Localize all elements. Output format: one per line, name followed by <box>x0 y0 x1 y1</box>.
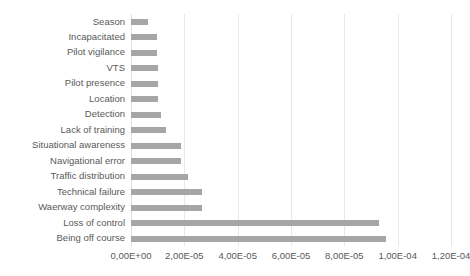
x-tick-label: 0,00E+00 <box>111 250 152 261</box>
category-label: Pilot vigilance <box>67 47 125 57</box>
category-label: Technical failure <box>57 187 125 197</box>
x-tick-label: 8,00E-05 <box>325 250 364 261</box>
bar <box>131 174 188 180</box>
bar-row <box>131 184 451 200</box>
category-label: Waerway complexity <box>38 202 125 212</box>
gridline <box>451 14 452 246</box>
category-label: Navigational error <box>50 156 125 166</box>
bar <box>131 127 166 133</box>
bar-row <box>131 153 451 169</box>
x-tick-label: 4,00E-05 <box>218 250 257 261</box>
bar <box>131 205 202 211</box>
bar <box>131 158 181 164</box>
x-tick-label: 1,00E-04 <box>378 250 417 261</box>
bar <box>131 19 148 25</box>
value-axis-tick-labels: 0,00E+002,00E-054,00E-056,00E-058,00E-05… <box>0 250 466 266</box>
bar-row <box>131 91 451 107</box>
category-label: Location <box>89 94 125 104</box>
bar <box>131 189 202 195</box>
category-label: Loss of control <box>63 218 125 228</box>
x-tick-label: 2,00E-05 <box>165 250 204 261</box>
bar <box>131 50 157 56</box>
bar <box>131 65 158 71</box>
bar <box>131 81 158 87</box>
bar <box>131 143 181 149</box>
bar-row <box>131 231 451 247</box>
plot-area <box>131 14 451 246</box>
x-tick-label: 1,20E-04 <box>432 250 470 261</box>
bar-row <box>131 60 451 76</box>
bar-row <box>131 200 451 216</box>
category-label: Incapacitated <box>68 32 125 42</box>
bar <box>131 236 386 242</box>
category-label: Being off course <box>57 233 125 243</box>
bar-row <box>131 138 451 154</box>
category-axis-labels: SeasonIncapacitatedPilot vigilanceVTSPil… <box>0 14 125 246</box>
x-tick-label: 6,00E-05 <box>272 250 311 261</box>
category-label: Season <box>93 17 125 27</box>
bar-row <box>131 107 451 123</box>
bar-row <box>131 169 451 185</box>
bar <box>131 112 161 118</box>
category-label: Situational awareness <box>32 140 125 150</box>
bar-row <box>131 29 451 45</box>
bar <box>131 96 158 102</box>
bar-row <box>131 14 451 30</box>
bar-row <box>131 122 451 138</box>
bar <box>131 220 379 226</box>
bar-row <box>131 76 451 92</box>
category-label: Detection <box>85 109 125 119</box>
category-label: Pilot presence <box>65 78 125 88</box>
category-label: Traffic distribution <box>51 171 125 181</box>
category-label: Lack of training <box>61 125 125 135</box>
bar-row <box>131 45 451 61</box>
category-label: VTS <box>107 63 125 73</box>
bar-row <box>131 215 451 231</box>
bar <box>131 34 157 40</box>
